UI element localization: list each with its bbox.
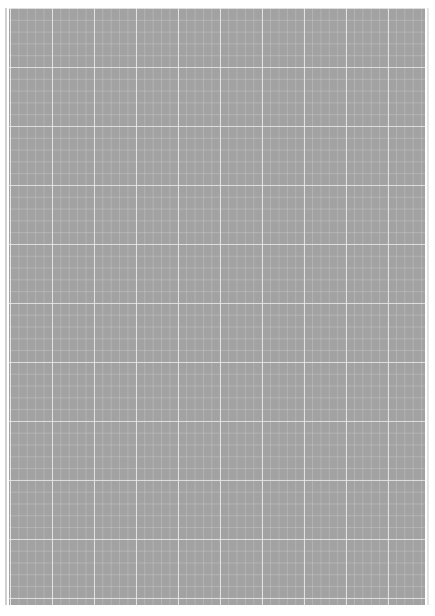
page-right-edge xyxy=(427,8,429,605)
page-left-edge xyxy=(5,8,7,605)
grid-paper-page xyxy=(9,8,425,605)
